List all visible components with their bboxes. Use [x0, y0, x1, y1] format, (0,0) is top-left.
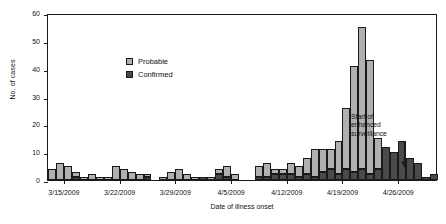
bar-column — [327, 149, 335, 180]
bar-segment-confirmed — [255, 177, 263, 180]
bar-segment-probable — [255, 166, 263, 177]
bar-segment-confirmed — [358, 169, 366, 180]
bar-column — [390, 152, 398, 180]
epidemic-curve-figure: No. of cases Date of illness onset 01020… — [0, 0, 446, 224]
y-tick-line — [44, 99, 48, 100]
bar-segment-confirmed — [382, 147, 390, 180]
bar-segment-probable — [223, 166, 231, 177]
bar-column — [430, 174, 438, 180]
bar-segment-probable — [104, 177, 112, 180]
bar-column — [96, 177, 104, 180]
bar-segment-probable — [287, 163, 295, 174]
bar-segment-confirmed — [327, 169, 335, 180]
bar-segment-confirmed — [311, 177, 319, 180]
bar-segment-probable — [207, 177, 215, 180]
legend-swatch-confirmed-icon — [126, 71, 133, 78]
bar-column — [144, 174, 152, 180]
y-tick-label: 60 — [22, 10, 40, 17]
bar-column — [72, 172, 80, 180]
bar-segment-confirmed — [263, 177, 271, 180]
x-tick-label: 3/22/2009 — [92, 189, 148, 196]
x-tick-line — [342, 180, 343, 184]
legend-swatch-probable-icon — [126, 58, 133, 65]
bar-column — [112, 166, 120, 180]
x-axis-title: Date of illness onset — [47, 203, 437, 210]
x-tick-label: 4/12/2009 — [259, 189, 315, 196]
bar-segment-confirmed — [199, 177, 207, 180]
bar-column — [88, 174, 96, 180]
bar-segment-probable — [231, 174, 239, 180]
bar-segment-confirmed — [350, 172, 358, 180]
bar-column — [167, 172, 175, 180]
bar-segment-probable — [88, 174, 96, 180]
bar-column — [80, 177, 88, 180]
y-tick-line — [44, 182, 48, 183]
x-tick-line — [175, 180, 176, 184]
bar-segment-probable — [48, 169, 56, 180]
x-tick-line — [120, 180, 121, 184]
bar-segment-confirmed — [366, 174, 374, 180]
bar-segment-probable — [295, 166, 303, 177]
bar-column — [104, 177, 112, 180]
bar-segment-confirmed — [72, 177, 80, 180]
bar-segment-confirmed — [319, 172, 327, 180]
bar-segment-confirmed — [295, 177, 303, 180]
annotation-line-1: Start of — [351, 113, 413, 121]
bar-column — [255, 166, 263, 180]
bar-column — [191, 177, 199, 180]
bar-segment-probable — [279, 169, 287, 175]
bar-column — [311, 149, 319, 180]
bar-column — [207, 177, 215, 180]
annotation-line-3: surveillance — [351, 130, 413, 138]
y-tick-line — [44, 154, 48, 155]
annotation-line-2: enhanced — [351, 121, 413, 129]
annotation-enhanced-surveillance: Start of enhanced surveillance — [351, 113, 413, 138]
bar-segment-confirmed — [287, 174, 295, 180]
bar-segment-probable — [374, 138, 382, 169]
bar-segment-probable — [327, 149, 335, 168]
bar-column — [319, 149, 327, 180]
x-tick-line — [287, 180, 288, 184]
legend-label-confirmed: Confirmed — [138, 70, 173, 79]
bar-column — [175, 169, 183, 180]
bar-segment-probable — [358, 27, 366, 169]
bar-segment-probable — [263, 163, 271, 177]
bar-segment-probable — [175, 169, 183, 180]
bar-column — [295, 166, 303, 180]
bar-column — [128, 172, 136, 180]
y-tick-line — [44, 43, 48, 44]
bar-column — [231, 174, 239, 180]
bar-column — [136, 174, 144, 180]
bar-segment-confirmed — [390, 152, 398, 180]
plot-area: 0102030405060 3/15/20093/22/20093/29/200… — [47, 14, 437, 181]
bar-column — [374, 138, 382, 180]
bar-segment-probable — [136, 174, 144, 180]
bar-segment-probable — [56, 163, 64, 180]
y-tick-line — [44, 15, 48, 16]
bar-column — [215, 169, 223, 180]
bar-segment-confirmed — [335, 174, 343, 180]
x-tick-line — [398, 180, 399, 184]
bar-column — [414, 163, 422, 180]
legend-item-probable: Probable — [126, 55, 173, 68]
x-tick-label: 4/5/2009 — [203, 189, 259, 196]
legend: Probable Confirmed — [126, 55, 173, 81]
x-tick-label: 3/29/2009 — [147, 189, 203, 196]
bar-column — [159, 177, 167, 180]
bar-segment-probable — [191, 177, 199, 180]
bar-segment-confirmed — [215, 174, 223, 180]
bar-segment-confirmed — [144, 177, 152, 180]
bar-segment-probable — [64, 166, 72, 180]
bar-segment-probable — [112, 166, 120, 180]
bar-column — [263, 163, 271, 180]
bar-column — [335, 141, 343, 180]
legend-label-probable: Probable — [138, 57, 168, 66]
bar-segment-probable — [215, 169, 223, 175]
y-tick-line — [44, 126, 48, 127]
y-tick-label: 30 — [22, 94, 40, 101]
bar-segment-probable — [183, 174, 191, 180]
bar-segment-probable — [128, 172, 136, 180]
bar-column — [199, 177, 207, 180]
x-tick-label: 4/26/2009 — [370, 189, 426, 196]
x-tick-label: 3/15/2009 — [36, 189, 92, 196]
